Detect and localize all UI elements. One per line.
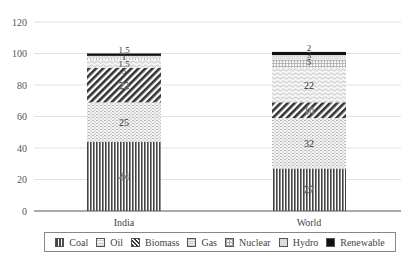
- legend-item-gas: Gas: [187, 237, 217, 248]
- y-tick-label: 20: [17, 174, 27, 185]
- y-tick-label: 40: [17, 143, 27, 154]
- legend-item-biomass: Biomass: [131, 237, 179, 248]
- data-label: 32: [304, 138, 314, 149]
- legend-label: Oil: [110, 237, 123, 248]
- bar-india: 44252251.511.5: [87, 45, 161, 212]
- data-label: 22: [304, 80, 314, 91]
- bars: 44252251.511.527321022532: [87, 43, 346, 211]
- data-label: 10: [304, 105, 314, 116]
- stacked-bar-chart: 020406080100120 44252251.511.52732102253…: [0, 0, 414, 270]
- data-label: 22: [119, 80, 129, 91]
- data-label: 1.5: [118, 45, 130, 55]
- legend-item-renewable: Renewable: [326, 237, 384, 248]
- x-label-world: World: [297, 217, 322, 228]
- legend-swatch-icon: [96, 238, 105, 247]
- legend-swatch-icon: [225, 238, 234, 247]
- legend-swatch-icon: [326, 238, 335, 247]
- x-label-india: India: [114, 217, 135, 228]
- legend-label: Renewable: [340, 237, 384, 248]
- legend-label: Gas: [201, 237, 217, 248]
- legend-item-oil: Oil: [96, 237, 123, 248]
- legend-label: Hydro: [293, 237, 319, 248]
- bar-world: 27321022532: [272, 43, 346, 211]
- y-tick-label: 80: [17, 80, 27, 91]
- legend-swatch-icon: [187, 238, 196, 247]
- legend-item-hydro: Hydro: [279, 237, 319, 248]
- data-label: 2: [307, 43, 312, 53]
- legend-label: Biomass: [145, 237, 179, 248]
- legend-item-coal: Coal: [55, 237, 88, 248]
- legend-swatch-icon: [55, 238, 64, 247]
- y-tick-label: 100: [12, 48, 27, 59]
- data-label: 25: [119, 117, 129, 128]
- legend-item-nuclear: Nuclear: [225, 237, 271, 248]
- data-label: 27: [304, 184, 314, 195]
- legend-label: Nuclear: [239, 237, 271, 248]
- y-tick-label: 0: [22, 206, 27, 217]
- legend-swatch-icon: [131, 238, 140, 247]
- legend-swatch-icon: [279, 238, 288, 247]
- data-label: 44: [119, 171, 129, 182]
- y-tick-label: 120: [12, 17, 27, 28]
- legend: CoalOilBiomassGasNuclearHydroRenewable: [44, 232, 396, 252]
- y-tick-label: 60: [17, 111, 27, 122]
- legend-label: Coal: [69, 237, 88, 248]
- y-axis-ticks: 020406080100120: [12, 17, 27, 217]
